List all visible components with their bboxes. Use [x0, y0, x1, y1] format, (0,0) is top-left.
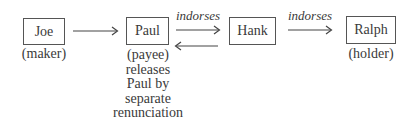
arrow-joe-to-paul	[73, 27, 118, 35]
node-joe-name: Joe	[35, 24, 54, 40]
node-joe: Joe	[23, 18, 65, 45]
node-paul-note-line: Paul by	[108, 77, 188, 92]
node-paul: Paul	[126, 17, 169, 45]
node-paul-role: (payee)	[113, 48, 183, 63]
node-ralph: Ralph	[346, 16, 396, 44]
node-hank: Hank	[229, 17, 276, 45]
edge-hank-to-ralph-label: indorses	[284, 9, 336, 24]
node-paul-note-line: renunciation	[103, 106, 193, 121]
node-paul-name: Paul	[135, 23, 160, 39]
arrow-paul-to-hank	[176, 26, 220, 34]
node-ralph-role: (holder)	[341, 47, 401, 62]
node-ralph-name: Ralph	[354, 22, 387, 38]
node-hank-name: Hank	[237, 23, 267, 39]
node-joe-role: (maker)	[14, 47, 74, 62]
edge-paul-to-hank-label: indorses	[172, 9, 224, 24]
arrow-hank-to-ralph	[288, 26, 332, 34]
